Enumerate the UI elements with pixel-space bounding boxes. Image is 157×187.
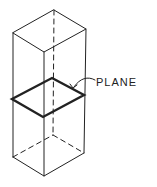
plane-section <box>12 78 84 117</box>
hidden-edge-back <box>53 10 54 135</box>
hidden-edge-bottom-left <box>13 135 53 157</box>
hidden-edge-bottom-right <box>53 135 84 153</box>
plane-label: PLANE <box>96 76 137 88</box>
leader-arrow <box>74 78 95 87</box>
prism-drawing <box>0 0 157 187</box>
bottom-visible-edges <box>13 153 84 176</box>
top-face <box>13 10 86 52</box>
edge-right <box>84 29 86 153</box>
diagram-canvas: PLANE <box>0 0 157 187</box>
